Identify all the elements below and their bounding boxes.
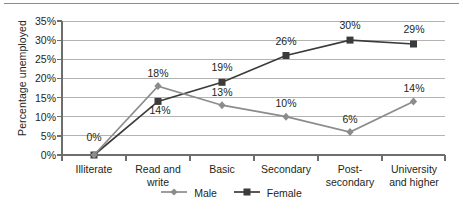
x-category-label-secondary: Secondary [254,163,318,176]
data-label-male-secondary: 10% [256,98,316,109]
gridlines [62,21,445,136]
data-label-male-university: 14% [384,83,444,94]
legend-label-male: Male [194,187,217,199]
legend-item-female[interactable]: Female [234,186,302,199]
data-label-female-basic: 19% [192,62,252,73]
data-label-male-post-secondary: 6% [320,114,380,125]
data-label-male-basic: 13% [192,87,252,98]
legend-marker-female-icon [234,187,260,199]
chart-legend: Male Female [0,185,463,199]
y-axis-ticks [57,21,62,155]
chart-figure: Percentage unemployed 35% 30% 25% 20% 15… [0,0,463,209]
x-category-label-basic: Basic [190,163,254,176]
data-label-male-read-and-write: 18% [128,68,188,79]
data-label-female-read-and-write: 14% [130,105,190,116]
x-axis-ticks [62,155,445,161]
data-label-female-secondary: 26% [256,36,316,47]
x-category-label-illiterate: Illiterate [62,163,126,176]
data-label-female-university: 29% [384,24,444,35]
data-label-male-illiterate: 0% [64,132,124,143]
legend-item-male[interactable]: Male [161,186,217,199]
data-label-female-post-secondary: 30% [320,20,380,31]
legend-marker-male-icon [161,187,187,199]
legend-label-female: Female [267,187,302,199]
